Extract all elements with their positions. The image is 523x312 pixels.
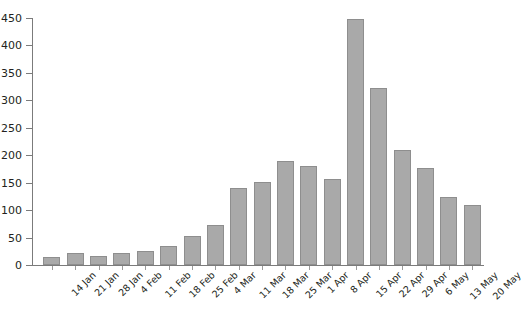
- bar: [90, 256, 107, 265]
- x-tick-mark: [192, 266, 193, 270]
- x-tick-label: 21 Jan: [93, 270, 121, 298]
- x-tick-mark: [99, 266, 100, 270]
- y-tick-label: 400: [0, 40, 22, 51]
- x-tick-mark: [402, 266, 403, 270]
- x-axis-line: [32, 265, 484, 266]
- x-tick-mark: [309, 266, 310, 270]
- x-tick-label: 8 Apr: [349, 270, 374, 295]
- x-tick-mark: [262, 266, 263, 270]
- bar: [417, 168, 434, 265]
- x-tick-mark: [285, 266, 286, 270]
- bar: [464, 205, 481, 265]
- bar: [137, 251, 154, 265]
- x-tick-mark: [449, 266, 450, 270]
- x-tick-mark: [145, 266, 146, 270]
- x-tick-mark: [239, 266, 240, 270]
- bar: [160, 246, 177, 265]
- x-tick-mark: [52, 266, 53, 270]
- bar: [440, 197, 457, 265]
- x-tick-mark: [332, 266, 333, 270]
- x-tick-mark: [472, 266, 473, 270]
- x-tick-mark: [379, 266, 380, 270]
- y-tick-label: 250: [0, 123, 22, 134]
- y-tick-label: 100: [0, 205, 22, 216]
- bar: [43, 257, 60, 265]
- bar: [394, 150, 411, 265]
- y-tick-label: 300: [0, 95, 22, 106]
- y-tick-label: 350: [0, 68, 22, 79]
- bar: [254, 182, 271, 265]
- y-tick-label: 150: [0, 178, 22, 189]
- y-tick-label: 0: [0, 260, 22, 271]
- x-tick-mark: [169, 266, 170, 270]
- bar: [113, 253, 130, 265]
- y-tick-label: 200: [0, 150, 22, 161]
- x-tick-label: 11 Feb: [164, 270, 194, 300]
- bar: [230, 188, 247, 265]
- bar: [347, 19, 364, 265]
- x-tick-label: 14 Jan: [70, 270, 98, 298]
- y-tick-label: 450: [0, 13, 22, 24]
- x-tick-mark: [426, 266, 427, 270]
- bar: [67, 253, 84, 265]
- y-tick-label: 50: [0, 233, 22, 244]
- bar: [184, 236, 201, 265]
- bar: [370, 88, 387, 265]
- bar: [277, 161, 294, 265]
- x-tick-mark: [215, 266, 216, 270]
- x-tick-mark: [122, 266, 123, 270]
- bar: [324, 179, 341, 265]
- y-tick-mark: [26, 265, 32, 266]
- x-tick-mark: [75, 266, 76, 270]
- bar: [300, 166, 317, 265]
- bar: [207, 225, 224, 265]
- x-tick-label: 15 Apr: [374, 270, 403, 299]
- plot-area: [32, 18, 484, 265]
- x-tick-mark: [356, 266, 357, 270]
